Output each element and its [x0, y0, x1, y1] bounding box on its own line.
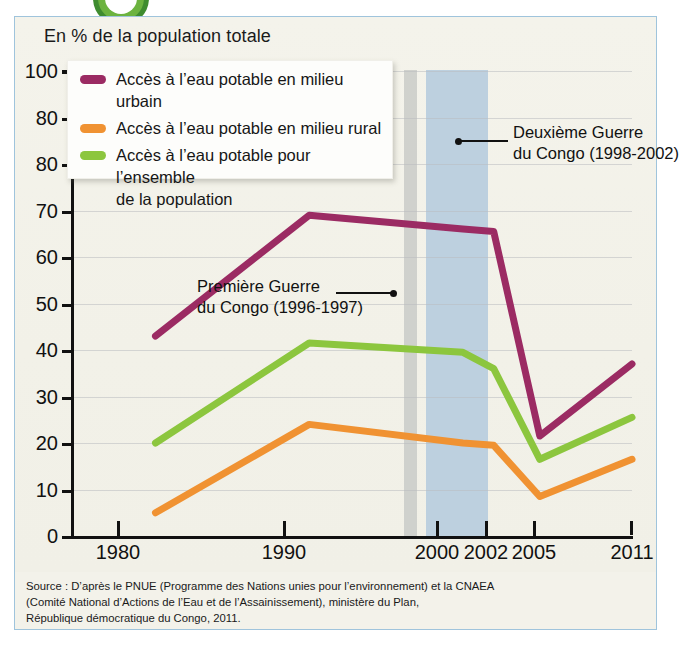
- legend-item-ensemble[interactable]: Accès à l’eau potable pour l’ensemble de…: [80, 145, 382, 211]
- series-line-ensemble: [156, 343, 633, 459]
- x-tick-label-2000: 2000: [415, 541, 460, 564]
- y-tick-20: [62, 443, 73, 446]
- annotation-deuxieme-guerre-line2: du Congo (1998-2002): [513, 144, 679, 162]
- legend: Accès à l’eau potable en milieu urbain A…: [67, 60, 393, 179]
- x-tick-label-2011: 2011: [610, 541, 653, 564]
- y-tick-label-10: 10: [12, 479, 58, 502]
- source-line-2: (Comité National d’Actions de l’Eau et d…: [26, 596, 419, 608]
- series-line-urban: [156, 215, 633, 436]
- x-tick-2005: [533, 521, 536, 537]
- legend-label-urban: Accès à l’eau potable en milieu urbain: [116, 69, 382, 113]
- x-axis-left-cap: [71, 521, 74, 535]
- gridline-20: [72, 443, 632, 444]
- x-tick-1980: [117, 521, 120, 537]
- legend-label-rural: Accès à l’eau potable en milieu rural: [116, 118, 381, 140]
- legend-label-ensemble-line2: de la population: [116, 190, 233, 208]
- y-tick-30: [62, 397, 73, 400]
- gridline-40: [72, 350, 632, 351]
- y-tick-40: [62, 350, 73, 353]
- x-tick-label-1990: 1990: [262, 541, 307, 564]
- legend-item-urban[interactable]: Accès à l’eau potable en milieu urbain: [80, 69, 382, 113]
- x-tick-1990: [283, 521, 286, 537]
- y-tick-50: [62, 304, 73, 307]
- source-note: Source : D’après le PNUE (Programme des …: [26, 578, 646, 626]
- annotation-dot-premiere-guerre: [390, 290, 397, 297]
- x-axis-right-cap: [630, 521, 633, 535]
- legend-swatch-urban-icon: [80, 75, 106, 84]
- y-tick-label-60: 60: [12, 246, 58, 269]
- legend-label-ensemble-line1: Accès à l’eau potable pour l’ensemble: [116, 146, 310, 186]
- y-tick-60: [62, 257, 73, 260]
- y-tick-label-20: 20: [12, 432, 58, 455]
- annotation-premiere-guerre-line2: du Congo (1996-1997): [197, 298, 363, 316]
- source-line-1: Source : D’après le PNUE (Programme des …: [26, 580, 494, 592]
- gridline-30: [72, 397, 632, 398]
- annotation-leader-premiere-guerre: [336, 292, 392, 294]
- series-line-rural: [156, 424, 633, 512]
- y-tick-label-0: 0: [12, 525, 58, 548]
- annotation-premiere-guerre-line1: Première Guerre: [197, 277, 320, 295]
- gridline-60: [72, 257, 632, 258]
- y-tick-label-40: 40: [12, 339, 58, 362]
- annotation-premiere-guerre: Première Guerre du Congo (1996-1997): [197, 276, 363, 319]
- x-axis-line: [71, 536, 633, 539]
- y-tick-10: [62, 490, 73, 493]
- annotation-leader-deuxieme-guerre: [460, 140, 508, 142]
- gridline-70: [72, 211, 632, 212]
- x-tick-label-1980: 1980: [96, 541, 141, 564]
- x-tick-2000: [436, 521, 439, 537]
- x-tick-label-2002: 2002: [464, 541, 509, 564]
- y-tick-label-70: 70: [12, 200, 58, 223]
- x-tick-label-2005: 2005: [512, 541, 557, 564]
- annotation-deuxieme-guerre: Deuxième Guerre du Congo (1998-2002): [513, 122, 679, 165]
- gridline-10: [72, 490, 632, 491]
- source-line-3: République démocratique du Congo, 2011.: [26, 612, 241, 624]
- x-tick-2002: [485, 521, 488, 537]
- legend-swatch-rural-icon: [80, 124, 106, 133]
- y-tick-label-100: 100: [12, 60, 58, 83]
- y-tick-label-80: 80: [12, 153, 58, 176]
- y-tick-label-30: 30: [12, 386, 58, 409]
- legend-swatch-ensemble-icon: [80, 151, 106, 160]
- legend-label-ensemble: Accès à l’eau potable pour l’ensemble de…: [116, 145, 382, 211]
- legend-item-rural[interactable]: Accès à l’eau potable en milieu rural: [80, 118, 382, 140]
- y-tick-70: [62, 211, 73, 214]
- y-tick-label-90: 80: [12, 107, 58, 130]
- annotation-deuxieme-guerre-line1: Deuxième Guerre: [513, 123, 643, 141]
- y-tick-label-50: 50: [12, 293, 58, 316]
